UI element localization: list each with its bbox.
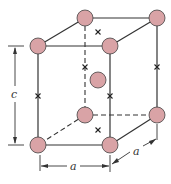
label-a-depth: a xyxy=(133,145,140,158)
atom-top-front-right xyxy=(102,38,118,54)
atom-top-back-right xyxy=(149,10,165,26)
atom-bottom-back-left xyxy=(77,107,93,123)
atom-bottom-front-left xyxy=(30,137,46,153)
unit-cell-diagram: c a a xyxy=(0,0,171,184)
atom-top-back-left xyxy=(77,10,93,26)
label-a-width: a xyxy=(70,160,77,173)
x-mark-icon xyxy=(96,128,101,133)
dimension-c: c xyxy=(8,46,24,145)
x-mark-icon xyxy=(96,30,101,35)
atom-top-front-left xyxy=(30,38,46,54)
atom-bottom-back-right xyxy=(149,107,165,123)
atom-body-center xyxy=(90,72,106,88)
label-c: c xyxy=(11,88,17,101)
dimension-a-width: a xyxy=(40,155,110,173)
atom-bottom-front-right xyxy=(102,137,118,153)
